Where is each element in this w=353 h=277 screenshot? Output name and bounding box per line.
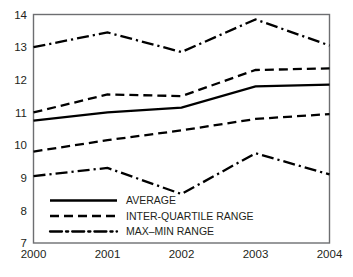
chart-canvas: 7891011121314 20002001200220032004 AVERA… xyxy=(0,0,353,277)
y-tick-label: 13 xyxy=(14,41,27,53)
x-tick-label: 2002 xyxy=(169,248,195,260)
y-tick-label: 10 xyxy=(14,139,27,151)
legend-label: MAX–MIN RANGE xyxy=(126,225,214,237)
x-tick-label: 2000 xyxy=(21,248,47,260)
y-tick-label: 14 xyxy=(14,9,27,21)
x-tick-label: 2004 xyxy=(317,248,343,260)
legend-label: AVERAGE xyxy=(126,194,176,206)
x-tick-label: 2003 xyxy=(243,248,269,260)
x-tick-label: 2001 xyxy=(95,248,121,260)
y-tick-label: 8 xyxy=(21,205,27,217)
legend-label: INTER-QUARTILE RANGE xyxy=(126,210,254,222)
line-chart: 7891011121314 20002001200220032004 AVERA… xyxy=(0,0,353,277)
y-tick-label: 12 xyxy=(14,74,27,86)
y-tick-label: 9 xyxy=(21,172,27,184)
y-tick-label: 11 xyxy=(15,107,27,119)
